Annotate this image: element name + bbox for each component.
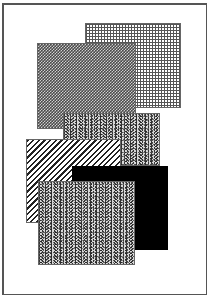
noise-rect-bottom	[38, 181, 135, 265]
